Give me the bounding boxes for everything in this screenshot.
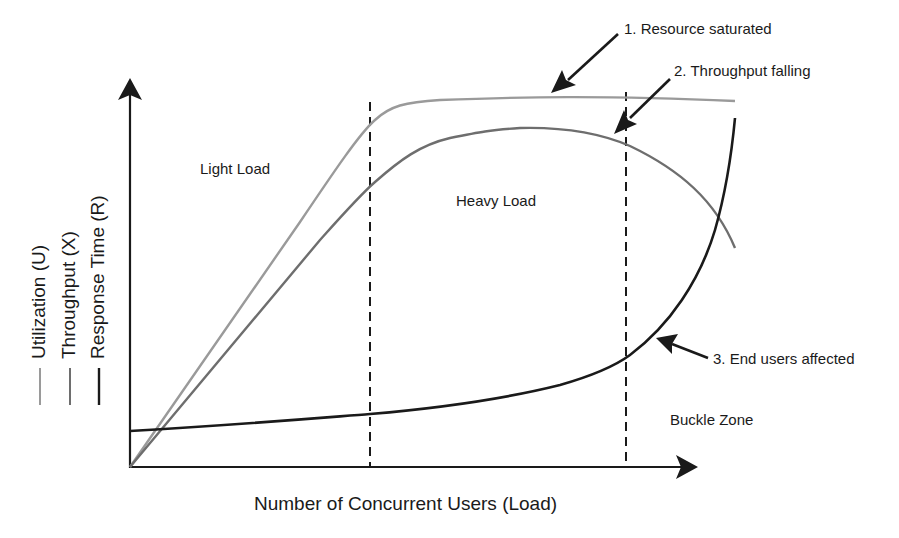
- arrow-1-head-icon: [551, 70, 576, 93]
- annotation-1-label: 1. Resource saturated: [624, 20, 772, 37]
- region-heavy-label: Heavy Load: [456, 192, 536, 209]
- legend-utilization: Utilization (U): [28, 245, 49, 405]
- arrow-1-line: [568, 34, 618, 80]
- legend-response-label: Response Time (R): [87, 195, 108, 359]
- arrow-3-line: [672, 344, 708, 358]
- legend-utilization-label: Utilization (U): [28, 245, 49, 359]
- chart-canvas: Light Load Heavy Load Buckle Zone 1. Res…: [0, 0, 899, 538]
- legend: Utilization (U) Throughput (X) Response …: [28, 195, 108, 405]
- throughput-curve: [130, 128, 735, 467]
- legend-throughput-label: Throughput (X): [58, 231, 79, 359]
- annotation-arrows: [551, 34, 708, 358]
- annotation-3-label: 3. End users affected: [713, 350, 854, 367]
- legend-response: Response Time (R): [87, 195, 108, 405]
- region-light-label: Light Load: [200, 160, 270, 177]
- legend-throughput: Throughput (X): [58, 231, 79, 405]
- x-axis-title: Number of Concurrent Users (Load): [254, 493, 557, 514]
- region-buckle-label: Buckle Zone: [670, 411, 753, 428]
- annotation-2-label: 2. Throughput falling: [674, 62, 811, 79]
